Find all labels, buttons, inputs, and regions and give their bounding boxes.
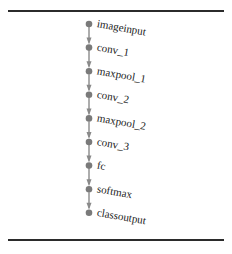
layer-graph: imageinputconv_1maxpool_1conv_2maxpool_2… bbox=[0, 0, 232, 254]
node-label-conv_2: conv_2 bbox=[96, 88, 130, 105]
node-label-maxpool_2: maxpool_2 bbox=[96, 112, 147, 132]
node-fc bbox=[86, 162, 93, 169]
node-label-maxpool_1: maxpool_1 bbox=[96, 64, 147, 84]
node-label-softmax: softmax bbox=[96, 182, 133, 200]
node-conv_1 bbox=[86, 44, 93, 51]
node-label-imageinput: imageinput bbox=[96, 17, 147, 37]
node-conv_3 bbox=[86, 139, 93, 146]
node-label-conv_1: conv_1 bbox=[96, 41, 130, 58]
node-label-fc: fc bbox=[96, 159, 107, 172]
arrowhead-icon bbox=[87, 61, 92, 68]
node-maxpool_2 bbox=[86, 115, 93, 122]
node-conv_2 bbox=[86, 92, 93, 99]
arrowhead-icon bbox=[87, 38, 92, 45]
arrowhead-icon bbox=[87, 85, 92, 92]
node-classoutput bbox=[86, 210, 93, 217]
node-softmax bbox=[86, 186, 93, 193]
arrowhead-icon bbox=[87, 156, 92, 163]
arrowhead-icon bbox=[87, 203, 92, 210]
node-imageinput bbox=[86, 21, 93, 28]
arrowhead-icon bbox=[87, 179, 92, 186]
arrowhead-icon bbox=[87, 132, 92, 139]
node-label-classoutput: classoutput bbox=[96, 206, 147, 226]
arrowhead-icon bbox=[87, 108, 92, 115]
node-label-conv_3: conv_3 bbox=[96, 135, 130, 153]
node-maxpool_1 bbox=[86, 68, 93, 75]
